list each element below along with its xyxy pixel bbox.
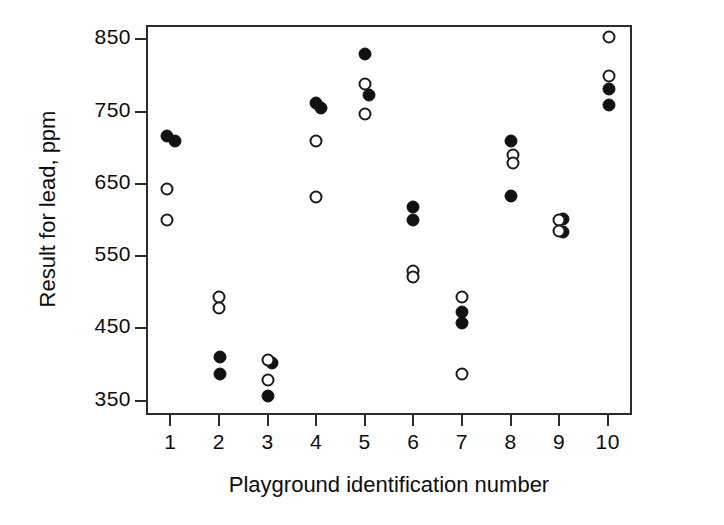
- x-axis-title: Playground identification number: [146, 472, 632, 498]
- y-tick-label: 650: [61, 170, 131, 194]
- x-tick-mark: [412, 415, 414, 426]
- x-tick-mark: [267, 415, 269, 426]
- y-tick-mark: [135, 183, 146, 185]
- y-tick-mark: [135, 400, 146, 402]
- x-tick-mark: [218, 415, 220, 426]
- y-tick-label: 750: [61, 98, 131, 122]
- y-axis-title: Result for lead, ppm: [35, 9, 61, 409]
- x-tick-mark: [510, 415, 512, 426]
- y-tick-label: 850: [61, 25, 131, 49]
- x-tick-mark: [461, 415, 463, 426]
- x-tick-mark: [607, 415, 609, 426]
- y-tick-mark: [135, 327, 146, 329]
- x-tick-mark: [558, 415, 560, 426]
- y-tick-mark: [135, 255, 146, 257]
- y-tick-label: 550: [61, 242, 131, 266]
- y-axis-tick-labels: 350450550650750850: [55, 0, 131, 525]
- plot-area-frame: [146, 25, 632, 415]
- x-tick-mark: [169, 415, 171, 426]
- y-tick-label: 450: [61, 314, 131, 338]
- scatter-plot-figure: 350450550650750850 12345678910 Result fo…: [0, 0, 724, 525]
- y-tick-mark: [135, 38, 146, 40]
- x-tick-mark: [364, 415, 366, 426]
- x-tick-mark: [315, 415, 317, 426]
- y-tick-label: 350: [61, 387, 131, 411]
- x-tick-label: 10: [578, 430, 638, 454]
- y-tick-mark: [135, 111, 146, 113]
